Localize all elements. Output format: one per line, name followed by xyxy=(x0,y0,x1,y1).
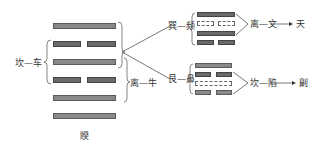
upper-branch-label: 巽—频 xyxy=(168,21,195,31)
upper-line-4-yin-right xyxy=(218,40,235,45)
main-hexagram-name: 睽 xyxy=(80,131,89,141)
hexagram-line-2-yin-left xyxy=(53,41,81,47)
hexagram-line-1-yang xyxy=(53,23,116,29)
hexagram-line-4-yin-right xyxy=(87,77,116,83)
lower-line-2-yin-left xyxy=(195,72,211,77)
upper-line-2-hollow-right xyxy=(218,21,235,26)
lower-result-label: 坎—陷 xyxy=(250,78,277,88)
hexagram-line-6-yang xyxy=(53,113,116,119)
lower-branch-label: 艮—鼻 xyxy=(168,74,195,84)
lower-line-4-yin-left xyxy=(195,90,211,95)
hexagram-line-2-yin-right xyxy=(87,41,116,47)
left-group-label: 坎—车 xyxy=(15,58,42,68)
hexagram-line-5-yang xyxy=(53,95,116,101)
lower-arrow-target: 劓 xyxy=(299,78,308,88)
hexagram-line-4-yin-left xyxy=(53,77,81,83)
lower-line-2-yin-right xyxy=(216,72,232,77)
hexagram-line-3-yang xyxy=(53,59,116,65)
upper-result-label: 离—文 xyxy=(250,19,277,29)
upper-line-4-yin-left xyxy=(197,40,214,45)
lower-line-4-yin-right xyxy=(216,90,232,95)
right-group-label: 离—牛 xyxy=(130,78,157,88)
upper-arrow-target: 天 xyxy=(296,19,305,29)
upper-line-2-hollow-left xyxy=(197,21,214,26)
lower-line-3-hollow-yang xyxy=(195,81,232,86)
lower-line-1-yang xyxy=(195,63,232,68)
upper-line-3-yang xyxy=(197,31,235,36)
upper-line-1-yang xyxy=(197,12,235,17)
